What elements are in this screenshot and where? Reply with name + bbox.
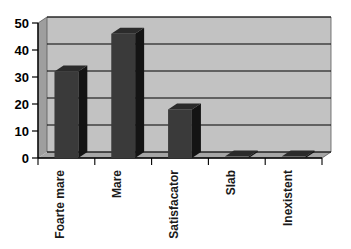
x-axis-ticks — [38, 158, 322, 165]
category-label-inexistent: Inexistent — [281, 170, 295, 226]
y-axis-ticks — [32, 23, 38, 158]
bar-side-face — [78, 66, 87, 158]
ytick-label-40: 40 — [15, 43, 29, 58]
bar-front-face — [168, 109, 192, 158]
bar-foarte-mare — [54, 66, 87, 158]
chart-canvas: 50 40 30 20 10 0 Foarte mareMareSatisfac… — [0, 0, 351, 249]
bar-satisfacator — [168, 103, 201, 158]
category-label-mare: Mare — [110, 170, 124, 198]
bar-side-face — [192, 103, 201, 158]
ytick-label-10: 10 — [15, 124, 29, 139]
ytick-label-50: 50 — [15, 16, 29, 31]
ytick-label-0: 0 — [22, 151, 29, 166]
category-label-satisfacator: Satisfacator — [167, 170, 181, 239]
category-label-slab: Slab — [224, 170, 238, 195]
category-label-foarte-mare: Foarte mare — [53, 170, 67, 239]
bar-front-face — [111, 34, 135, 158]
bar-mare — [111, 28, 144, 158]
bar-chart: 50 40 30 20 10 0 Foarte mareMareSatisfac… — [0, 0, 351, 249]
x-axis-category-labels: Foarte mareMareSatisfacatorSlabInexisten… — [53, 170, 294, 239]
ytick-label-30: 30 — [15, 70, 29, 85]
ytick-label-20: 20 — [15, 97, 29, 112]
y-axis-tick-labels: 50 40 30 20 10 0 — [15, 16, 29, 166]
plot-left-wall — [38, 17, 47, 158]
bar-side-face — [135, 28, 144, 158]
bar-front-face — [54, 72, 78, 158]
